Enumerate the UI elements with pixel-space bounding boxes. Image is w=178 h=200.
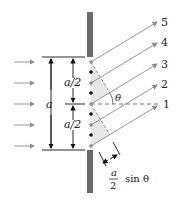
ray-label-2: 2 bbox=[161, 78, 168, 91]
path-diff-triangle-top bbox=[91, 62, 110, 104]
path-diff-numerator: a bbox=[111, 167, 117, 178]
angle-label: θ bbox=[115, 92, 121, 103]
angle-arc bbox=[110, 93, 113, 104]
ray-label-4: 4 bbox=[161, 36, 168, 49]
ray-label-5: 5 bbox=[161, 16, 168, 29]
ray-label-3: 3 bbox=[161, 58, 168, 71]
ray-label-1: 1 bbox=[163, 98, 170, 111]
diffraction-diagram: 5 4 3 2 1 a a/2 a/2 θ a 2 sin θ bbox=[0, 0, 178, 200]
barrier-top bbox=[87, 12, 93, 57]
path-diff-marker bbox=[99, 142, 120, 166]
path-diff-triangle-bottom bbox=[91, 104, 110, 146]
incident-arrows bbox=[14, 62, 34, 146]
path-diff-denominator: 2 bbox=[110, 180, 116, 191]
half-top-label: a/2 bbox=[64, 76, 81, 89]
slit-width-label: a bbox=[46, 98, 53, 111]
half-bottom-label: a/2 bbox=[64, 118, 81, 131]
path-diff-function: sin θ bbox=[125, 173, 149, 184]
barrier-bottom bbox=[87, 150, 93, 193]
